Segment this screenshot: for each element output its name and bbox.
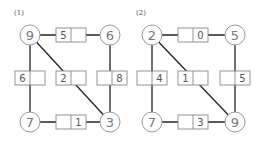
node-value: 6: [106, 28, 114, 43]
box-right-value: 3: [197, 117, 203, 128]
edge-weight-box: 6: [15, 71, 45, 85]
edge-weight-box: 2: [56, 71, 86, 85]
graph-label: (1): [14, 9, 24, 17]
graph-node: 7: [20, 112, 40, 132]
edge-weight-box: 5: [220, 71, 250, 85]
node-value: 7: [148, 115, 156, 130]
graph-label: (2): [136, 9, 146, 17]
graph-node: 2: [142, 25, 162, 45]
graph-2: (2)041532579: [136, 9, 250, 132]
box-left-value: 1: [182, 73, 188, 84]
graph-diagram: (1)562819673(2)041532579: [0, 0, 256, 141]
graph-node: 3: [100, 112, 120, 132]
box-left-value: 2: [60, 73, 66, 84]
box-right-value: 1: [75, 117, 81, 128]
node-value: 9: [231, 115, 239, 130]
node-value: 7: [26, 115, 34, 130]
box-right-value: 8: [116, 73, 122, 84]
edge-weight-box: 1: [178, 71, 208, 85]
graph-node: 9: [225, 112, 245, 132]
edge-weight-box: 1: [56, 115, 86, 129]
graph-node: 9: [20, 25, 40, 45]
edge-weight-box: 3: [178, 115, 208, 129]
node-value: 5: [231, 28, 239, 43]
box-left-value: 5: [60, 30, 66, 41]
box-right-value: 0: [197, 30, 203, 41]
edge-weight-box: 0: [178, 28, 208, 42]
graph-1: (1)562819673: [14, 9, 127, 132]
edge-weight-box: 5: [56, 28, 86, 42]
graph-node: 7: [142, 112, 162, 132]
node-value: 3: [106, 115, 114, 130]
edge-weight-box: 8: [97, 71, 127, 85]
edge-weight-box: 4: [137, 71, 167, 85]
graph-node: 5: [225, 25, 245, 45]
graph-node: 6: [100, 25, 120, 45]
node-value: 2: [148, 28, 156, 43]
node-value: 9: [26, 28, 34, 43]
box-right-value: 4: [156, 73, 162, 84]
box-right-value: 5: [239, 73, 245, 84]
box-left-value: 6: [19, 73, 25, 84]
